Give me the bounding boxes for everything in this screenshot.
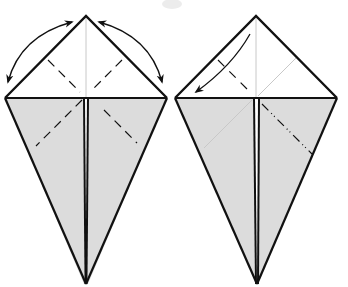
center-slit-right [258, 98, 259, 284]
smudge-mark [162, 0, 182, 9]
step-b [175, 16, 337, 284]
step-a [5, 16, 167, 284]
center-slit-left [84, 98, 86, 284]
center-slit-right [87, 98, 89, 284]
diagram-canvas [0, 0, 348, 287]
origami-diagram [0, 0, 348, 287]
